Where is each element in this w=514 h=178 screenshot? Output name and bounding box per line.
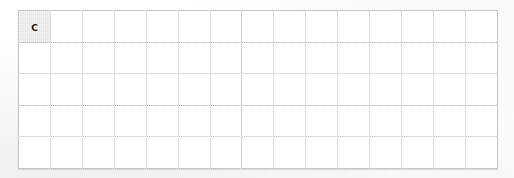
grid-cell[interactable] xyxy=(274,137,306,169)
grid-cell[interactable] xyxy=(82,105,114,137)
grid-cell[interactable] xyxy=(433,137,465,169)
grid-cell[interactable] xyxy=(338,11,370,43)
grid-cell[interactable] xyxy=(146,137,178,169)
grid-cell[interactable]: C xyxy=(19,11,51,43)
grid-cell[interactable] xyxy=(114,42,146,74)
grid-cell[interactable] xyxy=(306,137,338,169)
grid-cell[interactable] xyxy=(242,105,274,137)
grid-cell-label: C xyxy=(31,20,38,33)
grid-cell[interactable] xyxy=(19,105,51,137)
table-row xyxy=(19,105,498,137)
grid-cell[interactable] xyxy=(82,42,114,74)
table-row xyxy=(19,42,498,74)
grid-cell[interactable] xyxy=(370,137,402,169)
grid-cell[interactable] xyxy=(465,137,497,169)
grid-cell[interactable] xyxy=(19,137,51,169)
grid-cell[interactable] xyxy=(178,105,210,137)
scanned-page: C xyxy=(0,0,514,178)
grid-cell[interactable] xyxy=(402,11,434,43)
grid-table-body: C xyxy=(19,11,498,169)
grid-cell[interactable] xyxy=(146,105,178,137)
grid-cell[interactable] xyxy=(402,105,434,137)
grid-cell[interactable] xyxy=(402,137,434,169)
grid-cell[interactable] xyxy=(114,137,146,169)
grid-cell[interactable] xyxy=(433,105,465,137)
grid-cell[interactable] xyxy=(82,74,114,106)
grid-cell[interactable] xyxy=(306,42,338,74)
grid-cell[interactable] xyxy=(274,11,306,43)
grid-cell[interactable] xyxy=(242,42,274,74)
grid-cell[interactable] xyxy=(178,42,210,74)
grid-cell[interactable] xyxy=(146,11,178,43)
grid-cell[interactable] xyxy=(402,42,434,74)
grid-cell[interactable] xyxy=(82,137,114,169)
grid-cell[interactable] xyxy=(465,105,497,137)
grid-cell[interactable] xyxy=(146,74,178,106)
grid-cell[interactable] xyxy=(178,137,210,169)
grid-cell[interactable] xyxy=(370,74,402,106)
grid-cell[interactable] xyxy=(50,137,82,169)
grid-cell[interactable] xyxy=(19,74,51,106)
grid-cell[interactable] xyxy=(210,105,242,137)
grid-cell[interactable] xyxy=(50,42,82,74)
grid-cell[interactable] xyxy=(242,137,274,169)
grid-cell[interactable] xyxy=(114,105,146,137)
grid-cell[interactable] xyxy=(19,42,51,74)
grid-cell[interactable] xyxy=(242,11,274,43)
grid-cell[interactable] xyxy=(210,74,242,106)
table-row: C xyxy=(19,11,498,43)
grid-cell[interactable] xyxy=(338,137,370,169)
grid-cell[interactable] xyxy=(274,42,306,74)
grid-cell[interactable] xyxy=(338,105,370,137)
table-row xyxy=(19,74,498,106)
grid-cell[interactable] xyxy=(338,74,370,106)
grid-cell[interactable] xyxy=(210,42,242,74)
table-row xyxy=(19,137,498,169)
grid-cell[interactable] xyxy=(402,74,434,106)
grid-cell[interactable] xyxy=(178,11,210,43)
grid-cell[interactable] xyxy=(114,11,146,43)
grid-cell[interactable] xyxy=(50,74,82,106)
grid-cell[interactable] xyxy=(306,74,338,106)
grid-cell[interactable] xyxy=(210,11,242,43)
grid-cell[interactable] xyxy=(433,74,465,106)
grid-cell[interactable] xyxy=(338,42,370,74)
grid-cell[interactable] xyxy=(306,11,338,43)
grid-cell[interactable] xyxy=(178,74,210,106)
grid-table: C xyxy=(18,10,498,169)
grid-cell[interactable] xyxy=(370,105,402,137)
grid-cell[interactable] xyxy=(146,42,178,74)
grid-cell[interactable] xyxy=(242,74,274,106)
grid-cell[interactable] xyxy=(370,11,402,43)
grid-cell[interactable] xyxy=(210,137,242,169)
grid-cell[interactable] xyxy=(370,42,402,74)
grid-cell[interactable] xyxy=(274,105,306,137)
grid-cell[interactable] xyxy=(465,11,497,43)
grid-cell[interactable] xyxy=(306,105,338,137)
grid-cell[interactable] xyxy=(274,74,306,106)
grid-cell[interactable] xyxy=(50,11,82,43)
grid-cell[interactable] xyxy=(82,11,114,43)
grid-cell[interactable] xyxy=(465,74,497,106)
grid-cell[interactable] xyxy=(433,11,465,43)
grid-cell[interactable] xyxy=(433,42,465,74)
grid-cell[interactable] xyxy=(114,74,146,106)
grid-cell[interactable] xyxy=(465,42,497,74)
grid-cell[interactable] xyxy=(50,105,82,137)
